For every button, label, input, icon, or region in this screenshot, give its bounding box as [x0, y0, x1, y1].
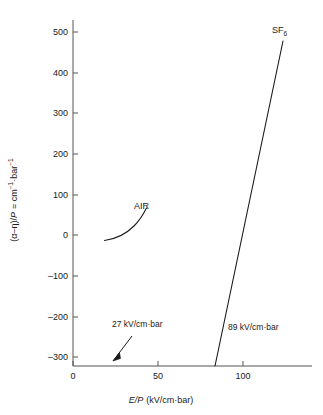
series-sf6-line: [215, 41, 283, 366]
y-tick-label-200: 200: [28, 150, 68, 159]
annotation-89-kv: 89 kV/cm·bar: [228, 323, 279, 332]
y-tick-label-100: 100: [28, 191, 68, 200]
curve-label-sf6-subscript: 6: [284, 30, 288, 37]
y-axis-ticks: [73, 32, 78, 357]
series-air-curve: [105, 208, 147, 241]
y-axis-title-exp2: −1: [7, 158, 14, 165]
y-tick-label-0: 0: [28, 231, 68, 240]
y-tick-label-neg300: –300: [24, 353, 68, 362]
y-tick-label-neg200: –200: [24, 313, 68, 322]
y-axis-title-bar: ·bar: [9, 166, 19, 182]
y-axis-title-equals: = cm: [9, 189, 19, 209]
y-tick-label-500: 500: [28, 28, 68, 37]
x-axis-title-units: (kV/cm·bar): [146, 395, 193, 405]
x-tick-label-0: 0: [70, 372, 75, 381]
x-axis-title-symbol: E/P: [129, 395, 144, 405]
y-axis-title: (α–η)/P= cm−1·bar−1: [10, 158, 19, 241]
x-tick-label-100: 100: [235, 372, 250, 381]
y-tick-label-300: 300: [28, 109, 68, 118]
annotation-arrow-27: [113, 336, 132, 361]
x-axis-title: E/P(kV/cm·bar): [129, 396, 194, 405]
y-tick-label-400: 400: [28, 69, 68, 78]
y-tick-label-neg100: –100: [24, 272, 68, 281]
y-axis-title-exp1: −1: [7, 182, 14, 189]
x-axis-ticks: [73, 361, 243, 366]
x-tick-label-50: 50: [153, 372, 163, 381]
curve-label-sf6: SF6: [272, 26, 287, 35]
figure-container: 500 400 300 200 100 0 –100 –200 –300 0 5…: [0, 0, 323, 415]
y-axis-title-pressure: P: [9, 212, 19, 218]
curve-label-sf6-base: SF: [272, 25, 284, 35]
annotation-27-kv: 27 kV/cm·bar: [112, 320, 163, 329]
y-axis-title-numerator: (α–η)/: [9, 218, 19, 242]
curve-label-air: AIR: [134, 202, 149, 211]
